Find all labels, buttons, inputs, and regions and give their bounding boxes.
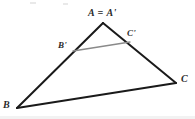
segment-ac [103, 23, 176, 83]
segment-bc [17, 83, 176, 108]
geometry-figure: A = A' B' C' B C [0, 0, 195, 119]
vertex-label-c: C [181, 74, 188, 84]
vertex-label-b: B [3, 100, 10, 110]
scan-edge-band [0, 116, 195, 119]
vertex-label-a: A = A' [88, 8, 117, 18]
segment-ab [17, 23, 103, 108]
vertex-label-c-prime: C' [127, 29, 136, 38]
vertex-label-b-prime: B' [58, 41, 67, 50]
